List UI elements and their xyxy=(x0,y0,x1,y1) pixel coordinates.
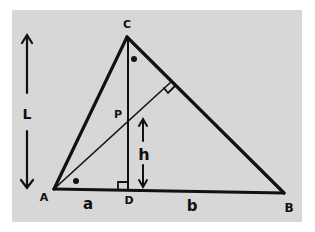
point-label-d: D xyxy=(124,194,133,207)
vertex-label-c: C xyxy=(123,18,131,31)
angle-dot-c xyxy=(131,56,137,62)
vertex-label-b: B xyxy=(284,201,293,215)
length-label-l: L xyxy=(23,106,32,122)
triangle-diagram: C A B D P a b h L xyxy=(0,0,315,232)
angle-dot-a xyxy=(73,178,79,184)
vertex-label-a: A xyxy=(40,191,49,204)
segment-label-a: a xyxy=(83,195,93,213)
point-label-p: P xyxy=(114,108,122,121)
height-label-h: h xyxy=(138,145,149,164)
segment-label-b: b xyxy=(187,197,198,215)
